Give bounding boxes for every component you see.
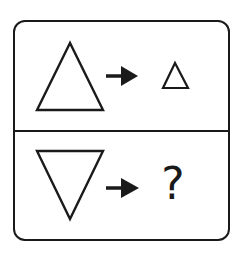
large-triangle-down-icon: [37, 151, 103, 219]
arrow-right-icon: [106, 178, 139, 198]
analogy-puzzle: ?: [0, 0, 242, 257]
arrow-right-icon: [106, 66, 138, 86]
puzzle-frame: [0, 0, 242, 257]
large-triangle-up-icon: [37, 43, 103, 110]
small-triangle-up-icon: [163, 63, 188, 88]
unknown-answer-mark: ?: [158, 158, 188, 210]
